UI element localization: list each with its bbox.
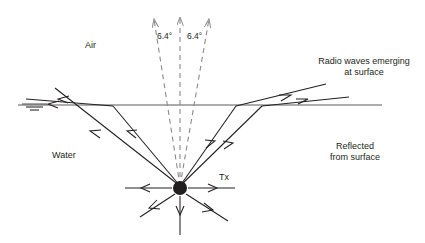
label-angle-right: 6.4° [187, 31, 202, 42]
cone-dashed-left [154, 19, 180, 186]
ray-diagram: Air Water Tx 6.4° 6.4° Radio waves emerg… [0, 0, 425, 243]
diagram-canvas [0, 0, 425, 243]
label-tx: Tx [219, 172, 229, 183]
label-emerging-line2: at surface [305, 67, 423, 78]
underwater-rays-left [78, 106, 180, 186]
emerging-rays-right [236, 84, 349, 106]
cone-dashed-lines [154, 17, 209, 186]
label-reflected-line1: Reflected [305, 141, 405, 152]
label-emerging-line1: Radio waves emerging [305, 56, 423, 67]
arrow-down-right [186, 194, 228, 221]
arrow-down-left [140, 194, 175, 217]
cone-dashed-right [180, 19, 209, 186]
label-reflected-line2: from surface [305, 152, 405, 163]
label-air: Air [85, 40, 96, 51]
transmitter-node-icon [173, 181, 187, 195]
label-angle-left: 6.4° [157, 31, 172, 42]
label-water: Water [52, 150, 76, 161]
